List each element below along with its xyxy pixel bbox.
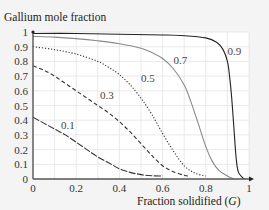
y-tick-label: 0.3 [14, 129, 28, 141]
curve-label: 0.9 [227, 45, 241, 57]
x-tick-label: 0.4 [113, 182, 127, 194]
y-tick-label: 1 [23, 26, 29, 38]
y-tick-label: 0.5 [14, 100, 28, 112]
x-tick-label: 0.8 [199, 182, 213, 194]
curve-label: 0.5 [141, 72, 155, 84]
x-tick-label: 1 [246, 182, 252, 194]
x-axis-label: Fraction solidified (G) [137, 195, 241, 208]
x-axis-arrow-icon [249, 177, 254, 182]
x-tick-label: 0.2 [69, 182, 83, 194]
y-tick-labels: 00.10.20.30.40.50.60.70.80.91 [14, 26, 28, 185]
y-tick-label: 0.2 [14, 144, 28, 156]
y-tick-label: 0.1 [14, 158, 28, 170]
curve-label: 0.3 [100, 89, 114, 101]
curve-label: 0.7 [173, 54, 187, 66]
y-tick-label: 0.4 [14, 114, 28, 126]
x-tick-label: 0 [30, 182, 36, 194]
chart: 0.10.30.50.70.9 00.10.20.30.40.50.60.70.… [0, 0, 269, 210]
curve-label: 0.1 [61, 119, 75, 131]
x-tick-labels: 00.20.40.60.81 [30, 182, 252, 194]
y-tick-label: 0.7 [14, 70, 28, 82]
y-tick-label: 0.9 [14, 41, 28, 53]
y-tick-label: 0 [23, 173, 29, 185]
y-axis-end-marker-icon [31, 30, 34, 33]
y-tick-label: 0.6 [14, 85, 28, 97]
y-axis-label: Gallium mole fraction [4, 11, 106, 23]
y-tick-label: 0.8 [14, 55, 28, 67]
x-tick-label: 0.6 [156, 182, 170, 194]
